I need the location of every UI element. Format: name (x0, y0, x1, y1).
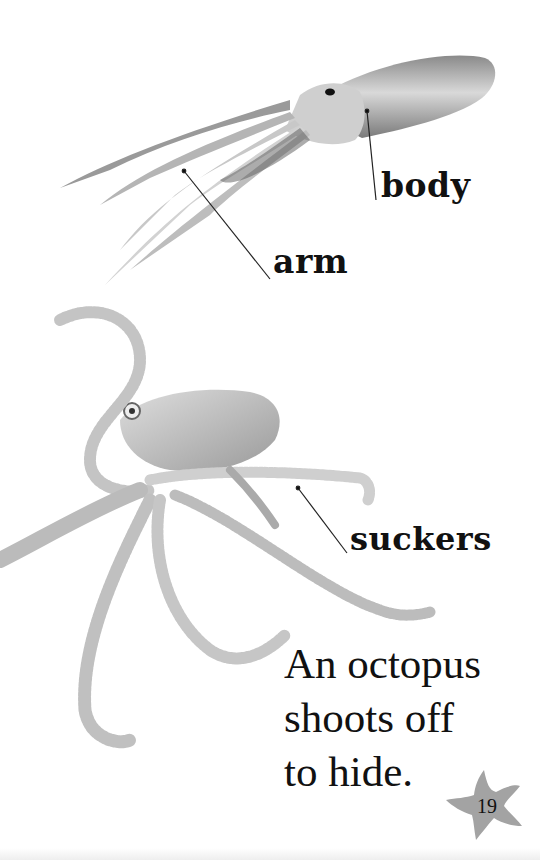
squid-eye (325, 89, 335, 96)
page-bottom-edge (0, 848, 540, 860)
caption-line: An octopus (284, 637, 481, 691)
page-number: 19 (477, 795, 497, 818)
arm-leader-line (184, 171, 270, 279)
leader-lines (182, 109, 376, 553)
label-body: body (381, 166, 470, 205)
caption-line: to hide. (284, 745, 481, 799)
octopus-mantle (120, 390, 280, 471)
label-arm: arm (273, 242, 348, 281)
caption-text: An octopus shoots off to hide. (284, 637, 481, 799)
caption-line: shoots off (284, 691, 481, 745)
label-suckers: suckers (350, 520, 492, 558)
suckers-leader-line (298, 488, 347, 553)
book-page: body arm suckers An octopus shoots off t… (0, 0, 540, 860)
